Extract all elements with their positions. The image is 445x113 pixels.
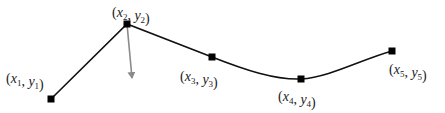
control-point-5	[389, 48, 396, 55]
spline-diagram: (x1, y1)(x2, y2)(x3, y3)(x4, y4)(x5, y5)	[0, 0, 445, 113]
point-label-4: (x4, y4)	[278, 89, 316, 111]
direction-arrow	[127, 24, 132, 78]
point-label-3: (x3, y3)	[180, 69, 218, 91]
control-point-4	[298, 76, 305, 83]
curve-line	[51, 24, 392, 99]
control-point-1	[48, 96, 55, 103]
point-label-1: (x1, y1)	[6, 71, 44, 93]
point-label-2: (x2, y2)	[112, 5, 150, 27]
control-point-3	[209, 54, 216, 61]
point-label-5: (x5, y5)	[389, 62, 427, 84]
